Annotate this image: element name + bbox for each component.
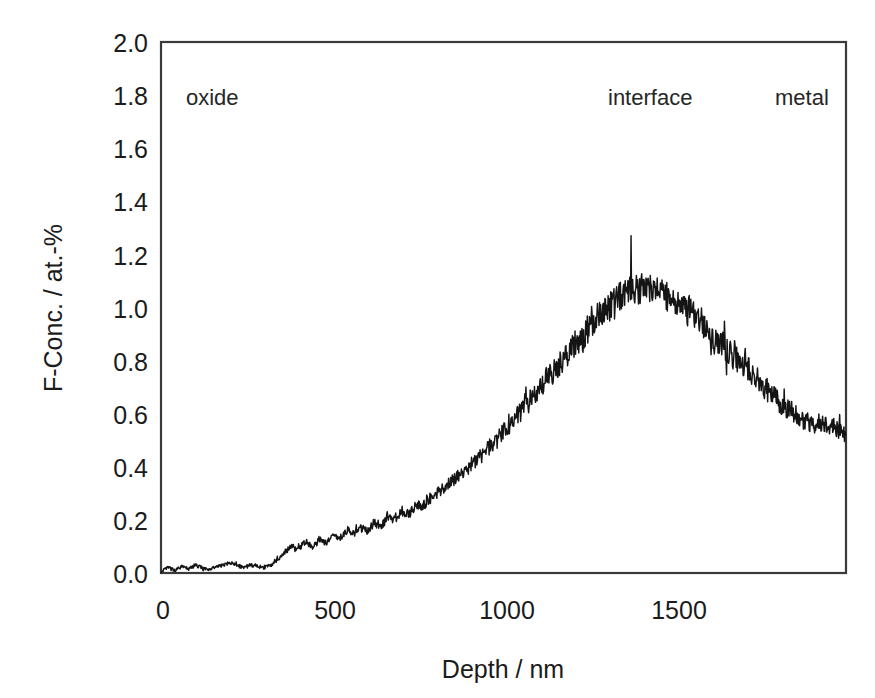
x-tick-label: 1000: [479, 596, 535, 624]
x-axis-title: Depth / nm: [442, 655, 564, 683]
y-axis-title: F-Conc. / at.-%: [39, 224, 67, 392]
x-tick-label: 1500: [651, 596, 707, 624]
annotation-interface: interface: [608, 85, 692, 110]
y-axis-tick-labels: 2.0 1.8 1.6 1.4 1.2 1.0 0.8 0.6 0.4 0.2 …: [113, 29, 148, 588]
y-tick-label: 0.8: [113, 348, 148, 376]
y-tick-label: 0.6: [113, 401, 148, 429]
data-series-line: [161, 236, 846, 573]
y-tick-label: 0.0: [113, 560, 148, 588]
y-tick-label: 2.0: [113, 29, 148, 57]
y-tick-label: 1.8: [113, 82, 148, 110]
y-tick-label: 1.0: [113, 295, 148, 323]
plot-frame: [161, 42, 846, 573]
x-tick-label: 500: [314, 596, 356, 624]
y-tick-label: 1.6: [113, 135, 148, 163]
annotation-metal: metal: [775, 85, 829, 110]
y-tick-label: 0.4: [113, 454, 148, 482]
chart-page: 2.0 1.8 1.6 1.4 1.2 1.0 0.8 0.6 0.4 0.2 …: [0, 0, 875, 698]
x-axis-tick-labels: 0 500 1000 1500: [156, 596, 707, 624]
y-tick-label: 1.4: [113, 188, 148, 216]
annotation-oxide: oxide: [186, 85, 239, 110]
depth-profile-chart: 2.0 1.8 1.6 1.4 1.2 1.0 0.8 0.6 0.4 0.2 …: [0, 0, 875, 698]
y-tick-label: 0.2: [113, 507, 148, 535]
y-tick-label: 1.2: [113, 242, 148, 270]
x-tick-label: 0: [156, 596, 170, 624]
